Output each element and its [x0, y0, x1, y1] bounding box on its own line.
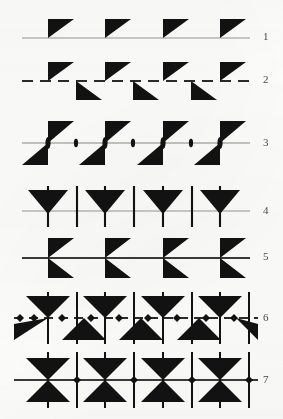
- diamond-node: [144, 314, 152, 322]
- inverted-triangle: [198, 296, 242, 318]
- diamond-node: [173, 314, 181, 322]
- lens-node: [74, 139, 78, 147]
- row-number-4: 4: [263, 205, 277, 216]
- diamond-node: [230, 314, 238, 322]
- half-cone: [236, 318, 258, 340]
- inverted-triangle: [26, 296, 70, 318]
- tooth-flag: [105, 19, 131, 38]
- tooth-flag: [22, 143, 48, 165]
- symbol-row-5: 5: [0, 234, 283, 286]
- diamond-node: [16, 314, 24, 322]
- symbol-row-1: 1: [0, 0, 283, 60]
- upright-triangle: [119, 318, 163, 340]
- diamond-node: [115, 314, 123, 322]
- symbol-row-2: 2: [0, 55, 283, 110]
- row-number-6: 6: [263, 312, 277, 323]
- tooth-flag: [105, 121, 131, 143]
- teeth-group-3-above: [48, 121, 246, 143]
- symbol-row-4: 4: [0, 180, 283, 235]
- row-number-5: 5: [263, 251, 277, 262]
- tooth-flag: [163, 19, 189, 38]
- diamond-node: [202, 314, 210, 322]
- symbol-row-7: 7: [0, 350, 283, 412]
- row-4-graphic: [0, 180, 283, 235]
- row-5-graphic: [0, 234, 283, 286]
- tooth-flag: [48, 121, 74, 143]
- tooth-flag: [133, 81, 159, 100]
- row-2-graphic: [0, 55, 283, 110]
- lens-node: [160, 137, 165, 149]
- row-6-graphic: [0, 288, 283, 348]
- tooth-flag: [194, 143, 220, 165]
- cone-group-6-below: [14, 318, 258, 340]
- tooth-flag: [220, 121, 246, 143]
- row-7-graphic: [0, 350, 283, 412]
- diamond-node: [58, 314, 66, 322]
- tooth-flag: [79, 143, 105, 165]
- lens-node: [45, 137, 50, 149]
- row-1-graphic: [0, 0, 283, 60]
- tooth-flag: [220, 19, 246, 38]
- row-3-graphic: [0, 113, 283, 178]
- teeth-group-2-below: [76, 81, 217, 100]
- diamond-node: [130, 376, 138, 384]
- tooth-flag: [191, 81, 217, 100]
- inverted-triangle: [83, 296, 127, 318]
- row-number-7: 7: [263, 374, 277, 385]
- upright-triangle: [62, 318, 106, 340]
- lens-node: [102, 137, 107, 149]
- tooth-flag: [48, 19, 74, 38]
- symbol-plate: 1 2: [0, 0, 283, 419]
- tooth-flag: [105, 62, 131, 81]
- half-cone: [14, 318, 48, 340]
- tooth-flag: [163, 121, 189, 143]
- tooth-flag: [76, 81, 102, 100]
- symbol-row-6: 6: [0, 288, 283, 348]
- symbol-row-3: 3: [0, 113, 283, 178]
- tooth-flag: [137, 143, 163, 165]
- row-number-3: 3: [263, 137, 277, 148]
- diamond-node: [245, 376, 253, 384]
- tick-group-4: [48, 186, 220, 227]
- diamond-node: [87, 314, 95, 322]
- tooth-flag: [163, 62, 189, 81]
- lens-node: [217, 137, 222, 149]
- lens-node: [131, 139, 135, 147]
- lens-node: [189, 139, 193, 147]
- tooth-flag: [220, 62, 246, 81]
- upright-triangle: [177, 318, 221, 340]
- diamond-node: [188, 376, 196, 384]
- teeth-group-2-above: [48, 62, 246, 81]
- row-number-2: 2: [263, 74, 277, 85]
- row-number-1: 1: [263, 31, 277, 42]
- diamond-node: [73, 376, 81, 384]
- teeth-group-1: [48, 19, 246, 38]
- tooth-flag: [48, 62, 74, 81]
